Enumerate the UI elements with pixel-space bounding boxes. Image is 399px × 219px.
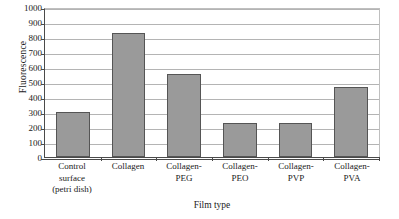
y-axis-tick-label: 700 <box>29 49 43 58</box>
y-axis-tick-label: 500 <box>29 79 43 88</box>
x-axis-category-label-line: PVA <box>325 173 379 185</box>
y-axis-tick-label: 900 <box>29 19 43 28</box>
bar-chart-figure: Fluorescence 100090080070060050040030020… <box>0 0 399 219</box>
bar[interactable] <box>334 87 367 158</box>
x-axis-category-label-line: PEG <box>157 173 211 185</box>
bar-slot <box>156 9 212 157</box>
x-axis-category-label-line: surface <box>45 173 99 185</box>
bar[interactable] <box>167 74 200 157</box>
x-axis-category-label-line: Collagen- <box>213 161 267 173</box>
bar[interactable] <box>223 123 256 158</box>
x-axis-category-label-line: Collagen- <box>325 161 379 173</box>
x-axis-category-label: Collagen-PVP <box>268 161 324 196</box>
bar-slot <box>212 9 268 157</box>
bar[interactable] <box>56 112 89 157</box>
x-axis-category-label-line: Collagen <box>101 161 155 173</box>
plot-area <box>44 8 380 158</box>
x-axis-category-label: Collagen-PVA <box>324 161 380 196</box>
y-axis-tick-label: 1000 <box>24 4 42 13</box>
x-axis-category-label-line: Control <box>45 161 99 173</box>
bar-series <box>45 9 379 157</box>
y-axis-tick-label: 400 <box>29 94 43 103</box>
y-axis-tick-label: 100 <box>29 139 43 148</box>
y-axis-tick-labels: 10009008007006005004003002001000 <box>14 8 42 158</box>
bar-slot <box>101 9 157 157</box>
bar-slot <box>268 9 324 157</box>
x-axis-category-label: Collagen-PEO <box>212 161 268 196</box>
y-axis-tick-label: 0 <box>38 154 43 163</box>
bar-slot <box>45 9 101 157</box>
y-axis-tick-label: 600 <box>29 64 43 73</box>
bar[interactable] <box>279 123 312 157</box>
y-axis-tick-label: 300 <box>29 109 43 118</box>
x-axis-category-label-line: Collagen- <box>269 161 323 173</box>
x-axis-category-labels: Controlsurface(petri dish)CollagenCollag… <box>44 161 380 196</box>
y-axis-tick-mark <box>41 159 45 160</box>
x-axis-category-label: Collagen <box>100 161 156 196</box>
bar-slot <box>323 9 379 157</box>
x-axis-category-label-line: (petri dish) <box>45 184 99 196</box>
y-axis-tick-label: 200 <box>29 124 43 133</box>
x-axis-category-label: Collagen-PEG <box>156 161 212 196</box>
x-axis-category-label: Controlsurface(petri dish) <box>44 161 100 196</box>
x-axis-title: Film type <box>44 200 380 210</box>
x-axis-category-label-line: PEO <box>213 173 267 185</box>
x-axis-category-label-line: PVP <box>269 173 323 185</box>
bar[interactable] <box>112 33 145 157</box>
x-axis-category-label-line: Collagen- <box>157 161 211 173</box>
y-axis-tick-label: 800 <box>29 34 43 43</box>
